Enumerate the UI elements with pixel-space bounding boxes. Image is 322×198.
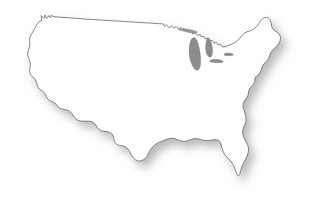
map-canvas: Blank outline map of the contiguous Unit…	[0, 0, 322, 198]
us-outline-map: Blank outline map of the contiguous Unit…	[0, 0, 322, 198]
